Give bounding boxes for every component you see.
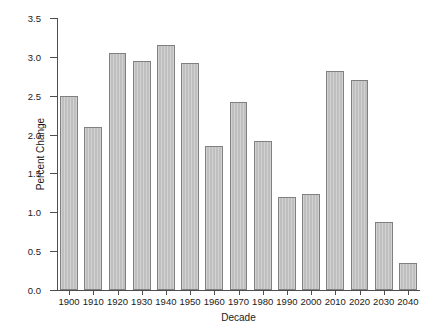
bar <box>278 197 296 290</box>
x-axis-tick <box>93 290 94 295</box>
x-axis-tick <box>335 290 336 295</box>
bar <box>302 194 320 290</box>
x-axis-tick <box>190 290 191 295</box>
x-axis-tick <box>118 290 119 295</box>
bar <box>205 146 223 290</box>
y-axis-tick-label: 1.5 <box>1 169 41 179</box>
y-axis-tick-label: 0.0 <box>1 286 41 296</box>
bar <box>375 222 393 290</box>
y-axis-tick <box>50 96 57 97</box>
x-axis-title: Decade <box>57 312 420 323</box>
bar <box>351 80 369 290</box>
bar <box>181 63 199 290</box>
bar <box>84 127 102 290</box>
y-axis-tick-label: 2.5 <box>1 92 41 102</box>
bar-chart: Percent Change 0.00.51.01.52.02.53.03.51… <box>0 0 429 332</box>
x-axis-tick <box>384 290 385 295</box>
y-axis-tick <box>50 290 57 291</box>
x-axis-tick <box>360 290 361 295</box>
y-axis-tick <box>50 57 57 58</box>
x-axis-tick-label: 2040 <box>390 297 426 307</box>
y-axis-tick-label: 1.0 <box>1 208 41 218</box>
bar <box>157 45 175 290</box>
x-axis-tick <box>239 290 240 295</box>
x-axis-tick <box>142 290 143 295</box>
x-axis-tick <box>408 290 409 295</box>
y-axis-tick-label: 2.0 <box>1 131 41 141</box>
x-axis-tick <box>214 290 215 295</box>
bar <box>326 71 344 290</box>
bar <box>109 53 127 290</box>
y-axis-tick-label: 0.5 <box>1 247 41 257</box>
bar <box>133 61 151 290</box>
y-axis-tick-label: 3.5 <box>1 14 41 24</box>
y-axis-tick <box>50 135 57 136</box>
y-axis-tick <box>50 18 57 19</box>
plot-area: 0.00.51.01.52.02.53.03.51900191019201930… <box>57 18 420 290</box>
x-axis-tick <box>166 290 167 295</box>
bar <box>399 263 417 290</box>
x-axis-tick <box>287 290 288 295</box>
x-axis-tick <box>69 290 70 295</box>
y-axis-tick <box>50 173 57 174</box>
x-axis-tick <box>311 290 312 295</box>
x-axis-tick <box>263 290 264 295</box>
y-axis-tick <box>50 251 57 252</box>
bar <box>230 102 248 290</box>
bar <box>254 141 272 290</box>
bar <box>60 96 78 290</box>
y-axis-tick <box>50 212 57 213</box>
y-axis-tick-label: 3.0 <box>1 53 41 63</box>
